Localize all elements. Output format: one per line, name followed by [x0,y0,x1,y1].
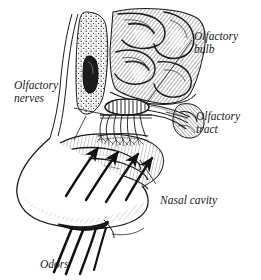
label-nasal-cavity: Nasal cavity [160,194,217,207]
label-olfactory-nerves-line1: Olfactory [14,79,58,91]
label-olfactory-tract-line1: Olfactory [196,110,240,122]
label-olfactory-tract-line2: tract [196,123,218,135]
label-olfactory-nerves-line2: nerves [14,92,44,104]
cerebral-cortex [110,9,205,105]
label-olfactory-bulb-line2: bulb [194,43,214,55]
olfactory-bulb-structure [105,99,149,115]
label-odors-text: Odors [40,258,69,270]
label-olfactory-nerves: Olfactory nerves [14,79,86,104]
label-odors: Odors [40,258,69,271]
label-olfactory-bulb: Olfactory bulb [194,30,260,55]
label-olfactory-bulb-line1: Olfactory [194,30,238,42]
olfactory-system-figure: Olfactory bulb Olfactory nerves Olfactor… [0,0,261,280]
label-nasal-cavity-text: Nasal cavity [160,194,217,206]
label-olfactory-tract: Olfactory tract [196,110,258,135]
